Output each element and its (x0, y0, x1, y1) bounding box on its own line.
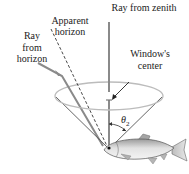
label-ray-from-horizon-3: horizon (14, 54, 50, 64)
label-apparent-horizon-1: Apparent (50, 16, 90, 26)
diagram-graphics (0, 0, 189, 174)
label-ray-from-horizon-2: from (14, 43, 50, 53)
snells-window-diagram: Ray from zenith Apparent horizon Ray fro… (0, 0, 189, 174)
apparent-horizon-line (51, 29, 107, 146)
label-theta-2: θ2 (121, 114, 129, 128)
fish-illustration (104, 134, 187, 164)
label-windows-center-1: Window's (127, 49, 173, 59)
fish-eye (107, 146, 110, 149)
windows-center-pointer (114, 82, 129, 97)
label-ray-from-zenith: Ray from zenith (104, 3, 184, 13)
label-apparent-horizon-2: horizon (50, 27, 90, 37)
label-windows-center-2: center (127, 61, 173, 71)
cone-left-edge (56, 97, 107, 147)
label-ray-from-horizon-1: Ray (14, 31, 50, 41)
theta-subscript: 2 (126, 120, 130, 128)
